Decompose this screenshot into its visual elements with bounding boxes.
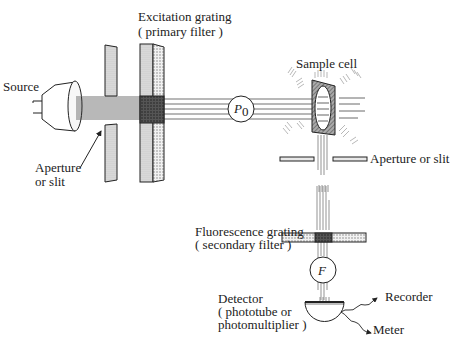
svg-text:0: 0 — [242, 104, 249, 119]
svg-text:P: P — [233, 101, 242, 116]
fluorometer-diagram: P 0 — [0, 0, 453, 350]
fluorescence-grating-label-line2: ( secondary filter ) — [195, 237, 291, 252]
meter-label: Meter — [373, 322, 405, 337]
aperture-pointer-arrow — [80, 131, 101, 168]
detector-leads — [341, 298, 377, 333]
detector-icon — [305, 302, 344, 322]
transmitted-beam — [339, 98, 365, 118]
svg-text:F: F — [317, 263, 327, 278]
exit-aperture-label: Aperture or slit — [370, 151, 450, 166]
sample-cell — [312, 80, 335, 135]
source-lamp-icon — [33, 81, 82, 131]
excitation-grating-label-line2: ( primary filter ) — [138, 24, 223, 39]
detector-label-line3: photomultiplier ) — [218, 317, 306, 332]
incident-power-marker: P 0 — [228, 96, 254, 122]
entrance-aperture-label-line2: or slit — [35, 174, 65, 189]
entrance-aperture-label-line1: Aperture — [35, 160, 81, 175]
exit-aperture — [280, 157, 367, 161]
excitation-beam — [76, 97, 312, 119]
excitation-grating-label-line1: Excitation grating — [138, 9, 232, 24]
excitation-grating — [140, 44, 164, 182]
recorder-label: Recorder — [385, 289, 433, 304]
fluorescent-power-marker: F — [310, 257, 336, 283]
entrance-aperture — [105, 45, 117, 182]
sample-cell-label: Sample cell — [296, 56, 357, 71]
source-label: Source — [3, 79, 39, 94]
